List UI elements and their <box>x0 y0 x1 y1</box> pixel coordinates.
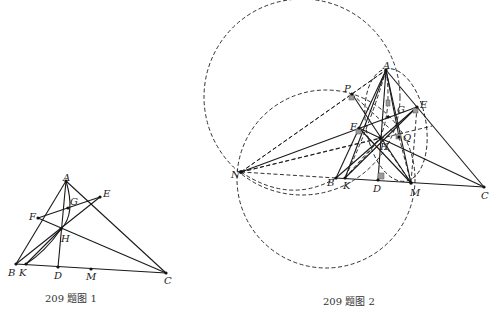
label-b-2: B <box>326 177 334 188</box>
right-angle-e <box>413 108 418 113</box>
line-be <box>16 197 100 264</box>
dash-em <box>411 107 417 183</box>
line-kh <box>26 229 61 264</box>
dash-np <box>241 94 352 172</box>
right-angle-g <box>386 100 390 106</box>
label-g: G <box>70 196 78 207</box>
side-ab <box>16 181 66 264</box>
label-f: F <box>28 211 37 222</box>
label-h-2: H <box>379 141 389 152</box>
right-angle-p <box>349 95 354 100</box>
figure-1: A B K D M C E G F H 209 题图 1 <box>0 0 497 309</box>
circle-large-upper <box>204 0 400 195</box>
label-c-2: C <box>481 190 489 201</box>
side-ac <box>66 181 166 273</box>
label-p: P <box>343 83 351 94</box>
label-k-2: K <box>342 180 351 191</box>
label-d-2: D <box>372 183 381 194</box>
figure-1-diagram: A B K D M C E G F H <box>7 172 172 286</box>
figure-2-diagram: A P E G F H Q N B K D M C <box>204 0 489 268</box>
label-n: N <box>230 169 241 180</box>
label-m: M <box>85 271 97 282</box>
line-cf <box>38 218 166 273</box>
caption-figure-1: 209 题图 1 <box>45 293 97 304</box>
label-a: A <box>62 172 70 183</box>
label-d: D <box>53 270 62 281</box>
label-f-2: F <box>349 121 358 132</box>
label-e-2: E <box>419 99 428 110</box>
label-c: C <box>164 275 172 286</box>
dash-nb <box>241 172 336 178</box>
label-e: E <box>102 188 111 199</box>
label-g-2: G <box>397 104 405 115</box>
label-a-2: A <box>382 60 390 71</box>
label-q: Q <box>403 132 411 143</box>
line-ne <box>241 107 417 172</box>
right-angle-d <box>378 173 384 179</box>
side-ac-2 <box>386 70 484 187</box>
label-b: B <box>7 267 15 278</box>
label-m-2: M <box>409 187 421 198</box>
label-k: K <box>18 267 27 278</box>
label-h: H <box>60 233 70 244</box>
caption-figure-2: 209 题图 2 <box>323 296 375 307</box>
